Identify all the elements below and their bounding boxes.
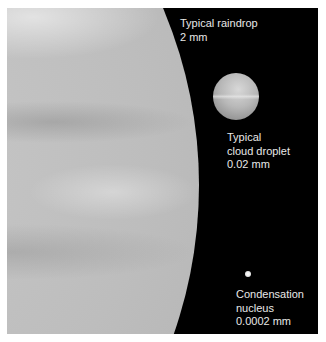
cloud-droplet-shape <box>213 73 259 120</box>
condensation-nucleus-shape <box>245 271 251 277</box>
nucleus-label: Condensation nucleus 0.0002 mm <box>236 288 304 329</box>
raindrop-label-size: 2 mm <box>180 31 258 45</box>
raindrop-label-name: Typical raindrop <box>180 17 258 31</box>
nucleus-label-line2: nucleus <box>236 302 304 316</box>
raindrop-label: Typical raindrop 2 mm <box>180 17 258 44</box>
nucleus-label-size: 0.0002 mm <box>236 315 304 329</box>
cloud-droplet-label-line2: cloud droplet <box>227 145 290 159</box>
cloud-droplet-label-line1: Typical <box>227 131 290 145</box>
size-comparison-figure: Typical raindrop 2 mm Typical cloud drop… <box>7 8 318 334</box>
raindrop-shape <box>7 8 199 334</box>
cloud-droplet-label-size: 0.02 mm <box>227 158 290 172</box>
cloud-droplet-label: Typical cloud droplet 0.02 mm <box>227 131 290 172</box>
nucleus-label-line1: Condensation <box>236 288 304 302</box>
